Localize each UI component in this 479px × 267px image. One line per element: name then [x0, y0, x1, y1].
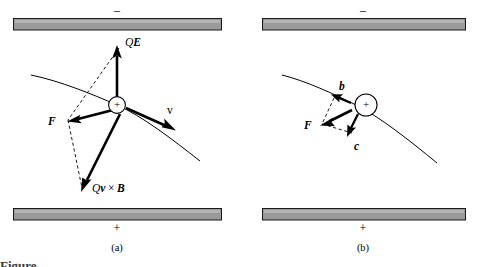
panel-b-vector-force [320, 110, 352, 126]
figure-root: – + QE F [0, 0, 479, 267]
physics-figure-canvas: – + QE F [0, 0, 479, 267]
panel-b-top-plate-highlight [264, 20, 464, 23]
panel-b-vector-force-head [320, 117, 335, 126]
panel-b-vector-b-shaft [339, 98, 351, 103]
panel-a-bottom-plate [14, 209, 222, 221]
panel-a-vector-force-label: F [47, 115, 56, 127]
panel-a-caption: (a) [111, 242, 123, 254]
panel-a-vector-qvxb [81, 114, 120, 192]
panel-b-vector-c-shaft [351, 114, 358, 128]
panel-a-dashed-f-to-qvxb [68, 120, 82, 188]
panel-a-top-plate-highlight [15, 20, 220, 23]
panel-a-vector-qvxb-label: Qv×B [92, 182, 125, 194]
panel-a-top-plate-sign: – [113, 3, 121, 17]
panel-b-bottom-plate-highlight [264, 210, 464, 213]
panel-a-vector-qvxb-shaft [87, 114, 120, 180]
panel-a-vector-velocity-shaft [126, 108, 164, 125]
panel-b-vector-b-label: b [339, 80, 345, 92]
panel-a-vector-force-shaft [78, 110, 113, 119]
panel-b-vector-force-label: F [303, 119, 312, 131]
panel-b-top-plate-sign: – [359, 3, 367, 17]
panel-a-charge-marker: + [109, 97, 126, 114]
panel-a-vector-velocity-head [162, 118, 176, 130]
panel-a-vector-qvxb-label-vector2: B [116, 182, 125, 194]
panel-a-bottom-plate-highlight [15, 210, 220, 213]
panel-a-charge-sign: + [114, 98, 120, 110]
panel-a-vector-qvxb-head [81, 178, 92, 192]
panel-b-vector-c-label: c [354, 140, 359, 152]
figure-caption-sliver: Figure [0, 259, 479, 267]
panel-a: – + QE F [14, 3, 222, 254]
panel-b-vector-force-shaft [330, 110, 352, 121]
panel-b-charge-sign: + [363, 98, 369, 110]
panel-b-top-plate [263, 19, 466, 31]
panel-a-top-plate [14, 19, 222, 31]
panel-b-bottom-plate [263, 209, 466, 221]
panel-a-vector-qe-label-vector: E [132, 36, 141, 48]
panel-b: – + b F [263, 3, 466, 254]
panel-a-vector-qe [112, 45, 122, 100]
panel-b-charge-marker: + [355, 94, 377, 116]
panel-a-vector-qvxb-label-operator: × [108, 182, 115, 194]
panel-a-trajectory [31, 75, 200, 161]
panel-a-bottom-plate-sign: + [114, 221, 121, 235]
panel-b-vector-c [347, 114, 358, 137]
panel-a-vector-qe-label: QE [125, 36, 141, 48]
panel-b-bottom-plate-sign: + [360, 221, 367, 235]
panel-a-vector-qvxb-label-vector: v [100, 182, 106, 194]
panel-a-vector-velocity-label: v [167, 104, 173, 116]
panel-b-caption: (b) [357, 242, 370, 254]
